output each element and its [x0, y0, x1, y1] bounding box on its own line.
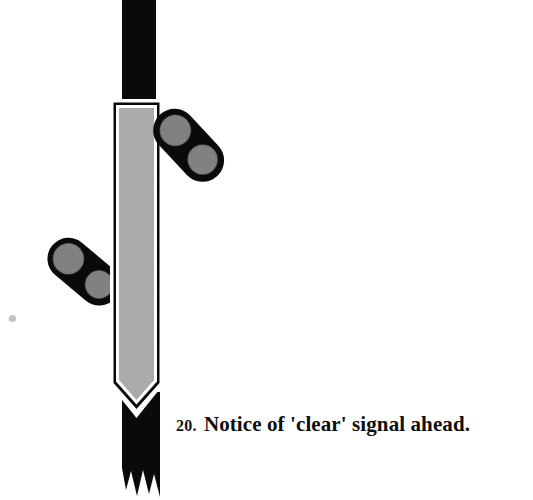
figure-caption: 20.Notice of 'clear' signal ahead.: [176, 412, 521, 437]
plate-grey-body: [119, 108, 154, 400]
post-frayed-base: [122, 440, 160, 497]
scan-speck: [9, 315, 16, 322]
signal-plate: [110, 99, 163, 418]
illustration-page: 20.Notice of 'clear' signal ahead.: [0, 0, 533, 500]
caption-number: 20.: [176, 417, 197, 434]
caption-text: Notice of 'clear' signal ahead.: [204, 412, 470, 436]
